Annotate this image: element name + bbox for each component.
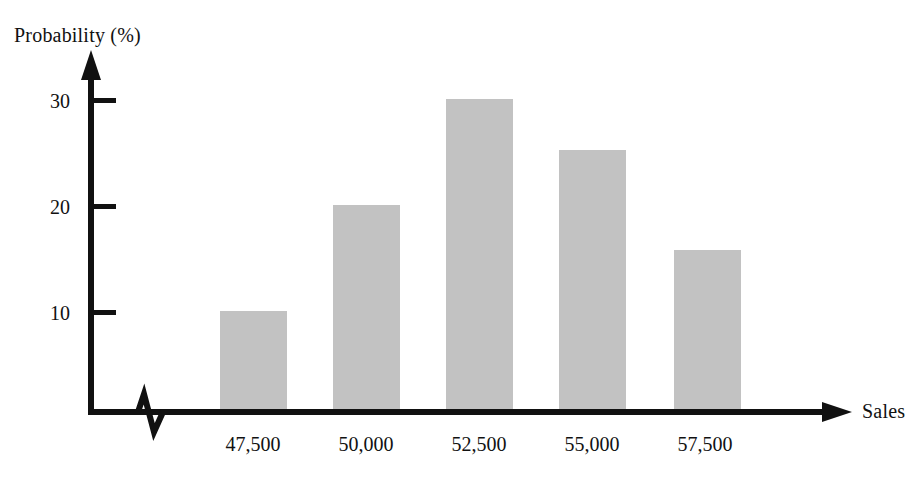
bar-55000	[559, 150, 626, 412]
bar-50000	[333, 205, 400, 412]
y-tick-20	[94, 204, 116, 209]
y-axis-arrowhead-icon	[81, 50, 101, 80]
axis-break-zigzag-icon	[126, 394, 178, 432]
bar-57500	[674, 250, 741, 412]
chart-plot-area	[0, 0, 908, 479]
bar-47500	[220, 311, 287, 412]
bar-52500	[446, 99, 513, 412]
x-axis-line	[88, 409, 840, 415]
bar-chart: Probability (%) Sales 30 20 10 47,500 50…	[0, 0, 908, 479]
y-tick-30	[94, 98, 116, 103]
y-tick-10	[94, 310, 116, 315]
y-axis-line	[88, 62, 94, 414]
x-axis-arrowhead-icon	[822, 402, 852, 422]
bars-group	[220, 99, 741, 412]
